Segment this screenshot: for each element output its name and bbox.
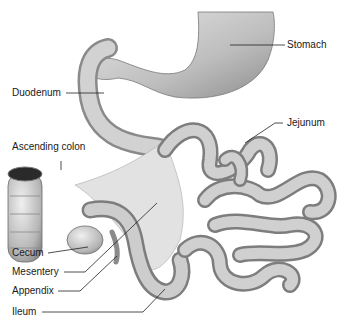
- label-jejunum: Jejunum: [287, 117, 325, 129]
- label-cecum: Cecum: [12, 247, 44, 259]
- label-ileum: Ileum: [12, 306, 36, 318]
- anatomy-diagram: Stomach Duodenum Jejunum Ascending colon…: [0, 0, 355, 327]
- label-mesentery: Mesentery: [12, 266, 59, 278]
- label-appendix: Appendix: [12, 285, 54, 297]
- label-ascending-colon: Ascending colon: [12, 141, 85, 153]
- label-duodenum: Duodenum: [12, 87, 61, 99]
- label-stomach: Stomach: [287, 39, 326, 51]
- jejunum-coils: [165, 130, 329, 285]
- appendix-shape: [112, 232, 117, 262]
- stomach-shape: [92, 12, 275, 98]
